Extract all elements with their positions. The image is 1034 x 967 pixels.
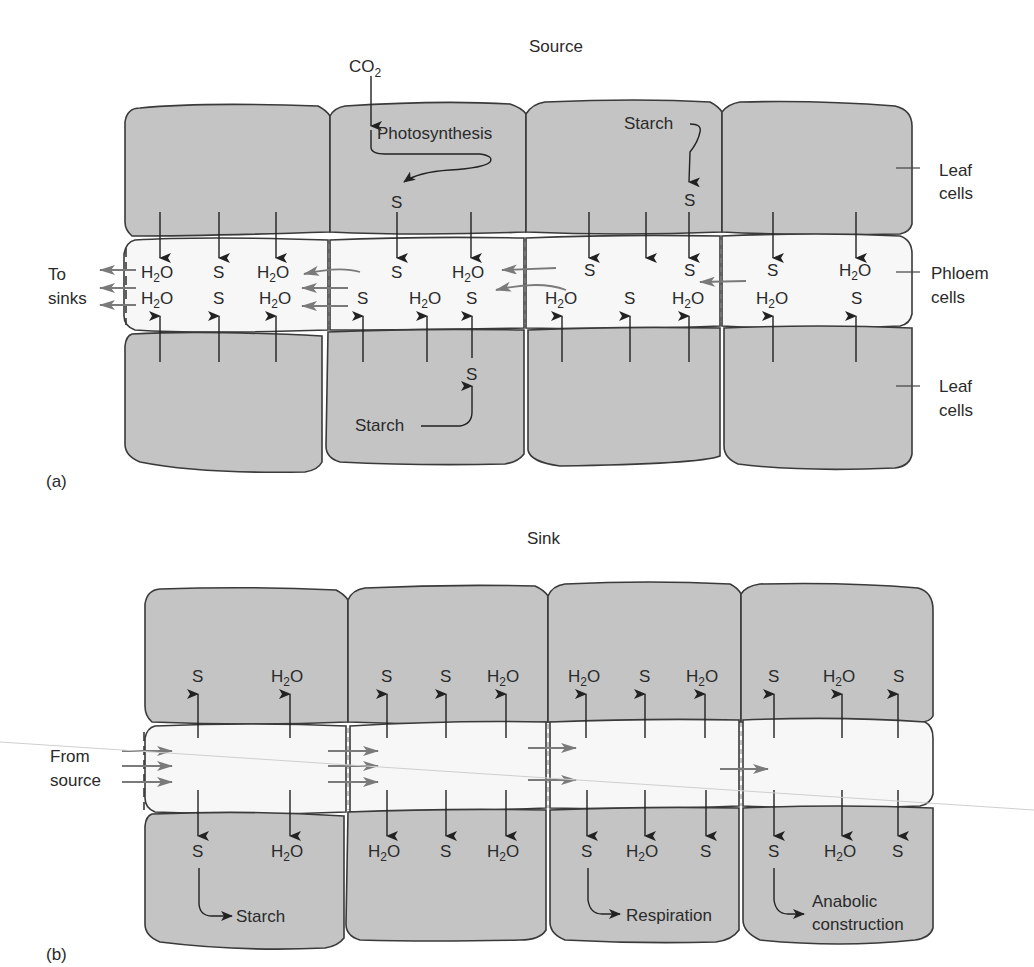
to-sinks-label: To [48,265,66,284]
panel-a-title: Source [529,37,583,56]
phloem-cells-label: cells [931,288,965,307]
sugar-label: S [192,842,203,861]
sugar-label: S [381,667,392,686]
leaf-cell [724,326,912,469]
sugar-label: S [768,667,779,686]
leaf-cells-label: cells [939,184,973,203]
panel-b-label: (b) [46,945,67,964]
sugar-label: S [213,263,224,282]
panel-a-label: (a) [46,472,67,491]
leaf-cell [330,102,526,234]
sugar-label: S [584,261,595,280]
flow-arrow-left [700,281,746,282]
respiration-fate-label: Respiration [626,906,712,925]
leaf-cell [326,329,524,464]
leaf-cells-label: Leaf [939,377,972,396]
leaf-cells-label: Leaf [939,161,972,180]
sugar-label: S [466,289,477,308]
sugar-label: S [213,289,224,308]
sugar-label: S [192,667,203,686]
phloem-cells-label: Phloem [931,264,989,283]
anabolic-fate-label: construction [812,915,904,934]
sugar-label: S [440,667,451,686]
phloem-transport-diagram: Source (a) CO2 Ph [0,0,1034,967]
starch-label-top: Starch [624,114,673,133]
panel-a-source: Source (a) CO2 Ph [46,37,989,491]
starch-label-bottom: Starch [355,416,404,435]
leaf-cells-top-row [125,100,912,236]
sugar-label: S [639,667,650,686]
sugar-label: S [892,842,903,861]
leaf-cells-bottom-row [125,326,912,472]
sugar-label: S [357,289,368,308]
diagram-canvas: Source (a) CO2 Ph [0,0,1034,967]
to-sinks-label: sinks [48,289,87,308]
sugar-label: S [466,365,477,384]
phloem-cell [743,718,933,808]
sugar-label: S [391,263,402,282]
sink-cell [145,812,344,949]
starch-fate-label: Starch [236,907,285,926]
leaf-cell [722,102,912,235]
sugar-label: S [768,842,779,861]
from-source-label: source [50,771,101,790]
sugar-label: S [624,289,635,308]
leaf-cell [125,332,322,472]
sugar-label: S [684,191,695,210]
sink-cell [741,584,933,725]
panel-b-sink: Sink (b) S H2 [0,529,1034,964]
sugar-label: S [684,261,695,280]
phloem-cell [124,238,328,332]
phloem-cell [526,235,720,328]
sink-cell [348,585,548,724]
anabolic-fate-label: Anabolic [812,892,878,911]
sugar-label: S [581,842,592,861]
leaf-cells-label: cells [939,401,973,420]
phloem-cell [722,234,912,328]
leaf-cell [528,327,720,466]
phloem-cells-row [124,234,912,332]
phloem-cell [145,724,346,814]
leaf-cell [125,104,330,236]
sugar-label: S [893,667,904,686]
sugar-label: S [851,289,862,308]
photosynthesis-label: Photosynthesis [377,124,492,143]
sink-cell [145,588,348,724]
from-source-label: From [50,747,90,766]
co2-label: CO2 [349,57,382,80]
sugar-label: S [440,842,451,861]
sugar-label: S [700,842,711,861]
sink-phloem-row [144,718,933,814]
sugar-label: S [767,261,778,280]
sugar-label: S [391,193,402,212]
sink-cells-top-row [145,582,933,724]
panel-b-title: Sink [527,529,561,548]
